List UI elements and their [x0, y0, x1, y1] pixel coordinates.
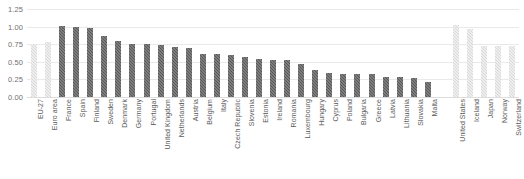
x-axis-slot: Greece — [365, 99, 379, 179]
bar-slot — [266, 9, 280, 97]
x-axis-slot: Austria — [182, 99, 196, 179]
bar-slot — [97, 9, 111, 97]
x-axis-slot: Malta — [421, 99, 435, 179]
bar-slot — [168, 9, 182, 97]
y-axis-tick-label: 0.00 — [8, 93, 23, 102]
bar[interactable] — [144, 44, 150, 98]
bar[interactable] — [340, 74, 346, 97]
bar-slot — [182, 9, 196, 97]
plot-area — [27, 9, 519, 97]
bar-slot — [407, 9, 421, 97]
bar[interactable] — [369, 74, 375, 97]
bar-slot — [196, 9, 210, 97]
x-axis-slot: Spain — [69, 99, 83, 179]
y-axis-tick-label: 0.50 — [8, 57, 23, 66]
bar[interactable] — [256, 59, 262, 97]
bar[interactable] — [383, 77, 389, 97]
bar-slot — [477, 9, 491, 97]
x-axis-slot: Italy — [210, 99, 224, 179]
x-axis-slot: United Kingdom — [154, 99, 168, 179]
bar-slot — [224, 9, 238, 97]
x-axis-slot: Bulgaria — [350, 99, 364, 179]
bar-slot — [69, 9, 83, 97]
bar[interactable] — [228, 55, 234, 97]
x-axis-slot: Denmark — [111, 99, 125, 179]
x-axis-slot: Romania — [280, 99, 294, 179]
bar[interactable] — [73, 27, 79, 97]
bar-slot — [111, 9, 125, 97]
bar[interactable] — [31, 44, 37, 98]
bar[interactable] — [101, 36, 107, 97]
bar-slot — [41, 9, 55, 97]
x-axis-slot: Ireland — [266, 99, 280, 179]
x-axis-slot: Iceland — [463, 99, 477, 179]
y-axis-tick-label: 0.75 — [8, 40, 23, 49]
bar[interactable] — [186, 48, 192, 97]
bar[interactable] — [214, 54, 220, 97]
bar[interactable] — [172, 47, 178, 97]
gridline — [27, 97, 519, 98]
bar-slot — [491, 9, 505, 97]
x-axis-slot: France — [55, 99, 69, 179]
x-axis-slot: Euro area — [41, 99, 55, 179]
x-axis-slot: Germany — [125, 99, 139, 179]
bar[interactable] — [115, 41, 121, 97]
bar-slot — [238, 9, 252, 97]
bar[interactable] — [45, 42, 51, 97]
bar[interactable] — [284, 60, 290, 97]
bar[interactable] — [495, 46, 501, 97]
x-axis-slot: Czech Republic — [224, 99, 238, 179]
bar-slot — [280, 9, 294, 97]
bar-slot — [27, 9, 41, 97]
bar[interactable] — [467, 29, 473, 97]
x-axis-slot: Netherlands — [168, 99, 182, 179]
bar[interactable] — [509, 46, 515, 97]
bar-slot — [322, 9, 336, 97]
bar[interactable] — [312, 70, 318, 97]
bar-slot — [421, 9, 435, 97]
bar-slot — [379, 9, 393, 97]
bar-slot — [83, 9, 97, 97]
bar[interactable] — [270, 60, 276, 97]
bar-slot — [393, 9, 407, 97]
x-axis-slot: Switzerland — [505, 99, 519, 179]
bar-slot — [505, 9, 519, 97]
bar[interactable] — [129, 44, 135, 98]
x-axis-slot: Japan — [477, 99, 491, 179]
bar-slot — [449, 9, 463, 97]
y-axis-tick-label: 1.00 — [8, 22, 23, 31]
x-axis-slot: Poland — [336, 99, 350, 179]
bar[interactable] — [481, 46, 487, 97]
bar-slot — [154, 9, 168, 97]
bar[interactable] — [411, 78, 417, 97]
bar[interactable] — [425, 82, 431, 97]
x-axis-slot: Portugal — [140, 99, 154, 179]
bar[interactable] — [158, 45, 164, 97]
bar-slot — [336, 9, 350, 97]
bar[interactable] — [200, 54, 206, 97]
bar[interactable] — [59, 26, 65, 97]
x-axis-slot: Finland — [83, 99, 97, 179]
x-axis-slot: Latvia — [379, 99, 393, 179]
x-axis-slot: Slovenia — [238, 99, 252, 179]
bar-slot — [210, 9, 224, 97]
x-axis-slot: Norway — [491, 99, 505, 179]
y-axis-tick-label: 0.25 — [8, 75, 23, 84]
bar[interactable] — [326, 73, 332, 97]
bar[interactable] — [87, 28, 93, 97]
bar[interactable] — [298, 64, 304, 97]
bar[interactable] — [397, 77, 403, 97]
x-axis-tick-label: Switzerland — [515, 99, 523, 136]
bar[interactable] — [354, 74, 360, 97]
bar-series — [27, 9, 519, 97]
bar-slot — [55, 9, 69, 97]
bar-slot — [463, 9, 477, 97]
bar-slot — [140, 9, 154, 97]
x-axis-slot: Cyprus — [322, 99, 336, 179]
bar[interactable] — [242, 57, 248, 97]
bar-slot — [308, 9, 322, 97]
x-axis-slot: United States — [449, 99, 463, 179]
bar-slot — [294, 9, 308, 97]
bar[interactable] — [453, 25, 459, 97]
y-axis: 1.251.000.750.500.250.00 — [0, 0, 27, 97]
